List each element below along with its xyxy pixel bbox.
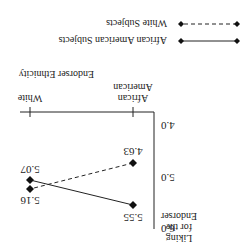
diamond-marker [129,159,137,167]
x-category-label: White [17,93,42,104]
y-tick-label: 5.0 [161,172,175,184]
legend-label: White Subjects [106,18,167,29]
line-chart: 6.0 5.0 4.0 Liking for the Endorser Afri… [0,0,249,252]
chart-canvas: 6.0 5.0 4.0 Liking for the Endorser Afri… [0,0,249,252]
diamond-marker [26,176,34,184]
diamond-marker [178,38,184,44]
y-tick-label: 4.0 [161,120,175,132]
x-axis-title: Endorser Ethnicity [19,69,94,80]
data-label: 4.63 [123,146,143,158]
x-category-label: African [118,93,149,104]
diamond-marker [178,21,184,27]
series-african-american-line [30,180,133,205]
legend-label: African American Subjects [59,35,167,46]
legend: African American Subjects White Subjects [59,18,240,46]
data-label: 5.55 [123,212,143,224]
diamond-marker [129,201,137,209]
data-label: 5.16 [20,195,40,207]
diamond-marker [26,185,34,193]
diamond-marker [234,21,240,27]
y-axis-label: for the [165,222,192,233]
y-axis-label: Liking [166,233,193,244]
diamond-marker [234,38,240,44]
series-white-line [30,163,133,189]
x-category-label: American [113,82,152,93]
y-axis-label: Endorser [160,211,197,222]
data-label: 5.07 [20,164,40,176]
